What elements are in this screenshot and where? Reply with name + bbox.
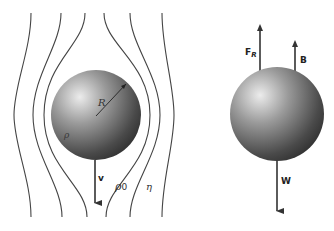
free-body-diagram: FR B W bbox=[230, 24, 324, 211]
weight-force-label: W bbox=[281, 176, 291, 186]
falling-sphere bbox=[51, 70, 141, 160]
radius-label: R bbox=[97, 97, 106, 108]
viscosity-label: η bbox=[146, 181, 152, 192]
free-body-sphere bbox=[230, 67, 324, 161]
streamline-1 bbox=[14, 13, 31, 217]
sphere-density-label: ρ bbox=[63, 130, 70, 140]
buoyancy-force-label: B bbox=[300, 55, 307, 65]
drag-force-arrowhead bbox=[257, 24, 263, 31]
fluid-density-label: ρ0 bbox=[114, 180, 127, 193]
streamline-6 bbox=[162, 13, 174, 217]
drag-force-label: FR bbox=[245, 47, 257, 59]
stokes-diagram: R ρ v ρ0 η FR B W bbox=[0, 0, 334, 231]
velocity-label: v bbox=[98, 173, 104, 183]
buoyancy-force-arrowhead bbox=[292, 40, 298, 47]
